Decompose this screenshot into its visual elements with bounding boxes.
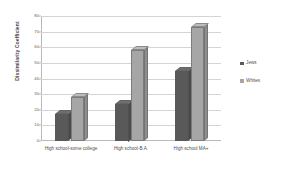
bar-face	[55, 114, 68, 141]
plot-area: 01020304050607080	[41, 16, 221, 141]
x-axis-category-label: High school-some college	[40, 146, 102, 152]
bar-face	[71, 97, 84, 141]
bar-whites-1	[131, 50, 144, 141]
y-axis-tick-mark	[39, 109, 41, 110]
y-axis-tick-mark	[39, 125, 41, 126]
bar-side	[84, 94, 88, 141]
y-axis-tick-mark	[39, 31, 41, 32]
x-axis-category-label: High school MA+	[160, 146, 222, 152]
y-axis-tick-mark	[39, 78, 41, 79]
x-axis-category-label: High school-B.A.	[100, 146, 162, 152]
y-axis-tick-mark	[39, 47, 41, 48]
bar-face	[175, 71, 188, 141]
bar-side	[204, 24, 208, 141]
bar-chart: Dissimilarity Coefficient 01020304050607…	[0, 0, 287, 174]
bar-jews-0	[55, 114, 68, 141]
y-axis-tick-mark	[39, 141, 41, 142]
gridline	[41, 16, 221, 17]
bar-jews-2	[175, 71, 188, 141]
legend-item-whites: Whites	[240, 79, 286, 84]
bar-whites-2	[191, 27, 204, 141]
legend-swatch-icon-jews	[240, 62, 244, 66]
bar-whites-0	[71, 97, 84, 141]
bar-face	[191, 27, 204, 141]
legend-label-whites: Whites	[246, 79, 260, 84]
bar-face	[115, 104, 128, 142]
y-axis-tick-mark	[39, 16, 41, 17]
bar-side	[144, 47, 148, 141]
y-axis-tick-mark	[39, 62, 41, 63]
legend-swatch-icon-whites	[240, 79, 244, 83]
bar-face	[131, 50, 144, 141]
legend-label-jews: Jews	[246, 61, 256, 66]
chart-legend: Jews Whites	[240, 61, 286, 96]
legend-item-jews: Jews	[240, 61, 286, 66]
bar-jews-1	[115, 104, 128, 142]
y-axis-title: Dissimilarity Coefficient	[14, 1, 20, 101]
y-axis-tick-mark	[39, 94, 41, 95]
